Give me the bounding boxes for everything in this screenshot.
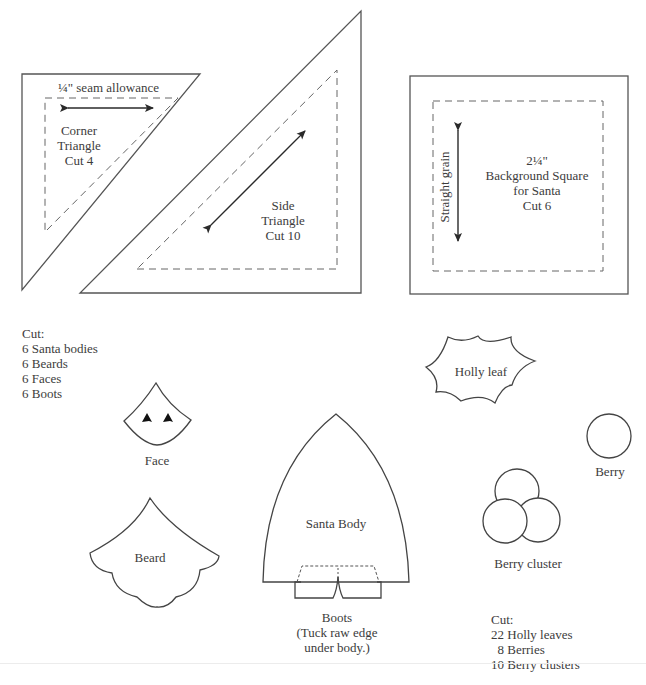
- santa-body-label: Santa Body: [296, 516, 376, 531]
- holly-leaf-label: Holly leaf: [448, 364, 514, 379]
- berry-cluster-label: Berry cluster: [488, 556, 568, 571]
- background-square-label: 2¼" Background Square for Santa Cut 6: [477, 153, 597, 213]
- corner-triangle-label: Corner Triangle Cut 4: [48, 123, 110, 168]
- side-triangle-label: Side Triangle Cut 10: [258, 198, 308, 243]
- santa-cut-list: Cut: 6 Santa bodies 6 Beards 6 Faces 6 B…: [22, 326, 98, 401]
- face-label: Face: [130, 453, 184, 468]
- face-template: [124, 383, 191, 445]
- boots-label: Boots (Tuck raw edge under body.): [282, 610, 392, 655]
- page-divider: [0, 663, 646, 664]
- santa-body-template: [263, 414, 409, 598]
- beard-label: Beard: [125, 550, 175, 565]
- corner-triangle-template: [22, 74, 200, 290]
- berry-template: [587, 414, 631, 458]
- seam-allowance-label: ¼" seam allowance: [58, 80, 159, 95]
- eye-icon: [142, 413, 152, 422]
- side-triangle-template: [80, 11, 361, 293]
- eye-icon: [163, 413, 173, 422]
- berry-cluster-template: [483, 469, 560, 543]
- boot-left: [295, 577, 338, 598]
- berry-label: Berry: [588, 464, 632, 479]
- straight-grain-label: Straight grain: [437, 142, 453, 232]
- boot-right: [338, 577, 381, 598]
